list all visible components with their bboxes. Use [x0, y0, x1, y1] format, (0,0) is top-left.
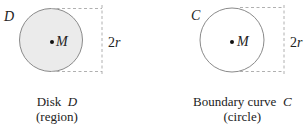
disk-caption-title: Disk D [36, 94, 78, 109]
circle-center-label: M [237, 35, 249, 49]
disk-caption-subtitle: (region) [36, 109, 78, 124]
circle-caption-title: Boundary curve C [193, 94, 292, 109]
circle-caption: Boundary curve C (circle) [193, 94, 292, 124]
disk-dimension-label: 2r [108, 36, 120, 50]
center-point [50, 40, 54, 44]
disk-shape [20, 9, 83, 72]
disk-caption: Disk D (region) [36, 94, 78, 124]
circle-corner-label: C [191, 9, 200, 23]
center-point [230, 40, 234, 44]
disk-center-label: M [56, 35, 68, 49]
disk-corner-label: D [4, 10, 14, 24]
circle-dimension-label: 2r [290, 36, 302, 50]
circle-caption-subtitle: (circle) [193, 109, 292, 124]
